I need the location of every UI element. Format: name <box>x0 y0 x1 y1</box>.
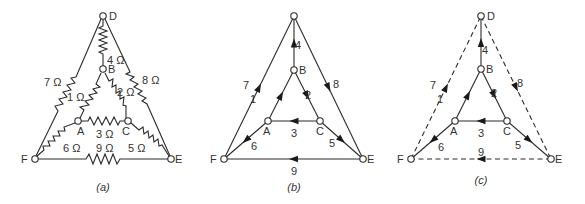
node-E <box>548 156 554 162</box>
panel-a-circuit: D B A C F E 4 Ω 7 Ω 8 Ω 1 Ω 2 Ω 3 Ω 6 Ω … <box>21 10 182 193</box>
node-A <box>75 118 81 124</box>
resistor-8-ohm <box>105 19 170 156</box>
node-label-F: F <box>397 153 404 165</box>
resistor-label-2: 2 Ω <box>117 86 134 98</box>
arrow-icon-branch-7 <box>254 83 261 92</box>
node-B <box>100 66 106 72</box>
branch-label-8: 8 <box>333 78 339 90</box>
resistor-label-7: 7 Ω <box>44 76 61 88</box>
node-D <box>478 13 484 19</box>
branch-label-8: 8 <box>517 77 523 89</box>
arrow-icon-branch-1 <box>276 91 283 100</box>
node-B <box>478 66 484 72</box>
arrow-icon-branch-8 <box>324 82 331 91</box>
branch-label-5: 5 <box>515 139 521 151</box>
resistor-label-6: 6 Ω <box>63 142 80 154</box>
node-F <box>221 156 227 162</box>
node-label-F: F <box>21 153 28 165</box>
node-label-D: D <box>109 10 117 22</box>
arrow-icon-branch-9 <box>289 156 298 162</box>
node-label-F: F <box>210 153 217 165</box>
resistor-9-ohm <box>38 154 168 164</box>
node-label-B: B <box>486 63 493 75</box>
panel-b-graph: 123456789BACFE(b) <box>210 13 374 193</box>
node-label-B: B <box>299 64 306 76</box>
branch-label-9: 9 <box>291 165 297 177</box>
resistor-label-9: 9 Ω <box>96 142 113 154</box>
caption-c: (c) <box>475 174 488 186</box>
node-D <box>100 13 106 19</box>
branch-label-4: 4 <box>295 39 301 51</box>
node-C <box>317 118 323 124</box>
node-A <box>265 118 271 124</box>
branch-label-5: 5 <box>329 137 335 149</box>
node-label-A: A <box>263 125 271 137</box>
node-C <box>504 118 510 124</box>
node-C <box>125 118 131 124</box>
resistor-label-4: 4 Ω <box>107 54 124 66</box>
node-F <box>32 156 38 162</box>
node-E <box>168 156 174 162</box>
network-figure: D B A C F E 4 Ω 7 Ω 8 Ω 1 Ω 2 Ω 3 Ω 6 Ω … <box>0 0 585 204</box>
branch-label-6: 6 <box>251 140 257 152</box>
branch-label-4: 4 <box>482 44 488 56</box>
branch-label-3: 3 <box>478 127 484 139</box>
node-label-C: C <box>316 125 324 137</box>
arrow-icon-branch-3 <box>290 118 299 124</box>
branch-label-7: 7 <box>243 79 249 91</box>
node-label-C: C <box>122 125 130 137</box>
node-label-E: E <box>175 153 182 165</box>
resistor-4-ohm <box>99 19 107 66</box>
node-A <box>452 118 458 124</box>
branch-label-7: 7 <box>430 79 436 91</box>
branch-label-2: 2 <box>305 89 311 101</box>
node-label-A: A <box>77 125 85 137</box>
caption-a: (a) <box>96 181 110 193</box>
branch-label-2: 2 <box>491 87 497 99</box>
panel-c-tree: 123456789DBACFE(c) <box>397 10 562 186</box>
node-D <box>291 13 297 19</box>
branch-label-6: 6 <box>438 141 444 153</box>
arrow-icon-branch-7 <box>441 83 448 92</box>
resistor-3-ohm <box>81 117 125 125</box>
node-label-C: C <box>503 125 511 137</box>
resistor-label-8: 8 Ω <box>142 74 159 86</box>
node-B <box>291 67 297 73</box>
arrow-icon-branch-3 <box>477 118 486 124</box>
node-label-D: D <box>487 10 495 22</box>
node-label-E: E <box>555 153 562 165</box>
arrow-icon-branch-1 <box>463 91 470 100</box>
branch-label-3: 3 <box>291 127 297 139</box>
resistor-label-5: 5 Ω <box>128 142 145 154</box>
resistor-label-3: 3 Ω <box>96 128 113 140</box>
branch-label-9: 9 <box>478 146 484 158</box>
resistor-label-1: 1 Ω <box>67 91 84 103</box>
caption-b: (b) <box>287 181 301 193</box>
node-F <box>408 156 414 162</box>
node-label-A: A <box>450 125 458 137</box>
node-E <box>360 156 366 162</box>
node-label-E: E <box>367 153 374 165</box>
